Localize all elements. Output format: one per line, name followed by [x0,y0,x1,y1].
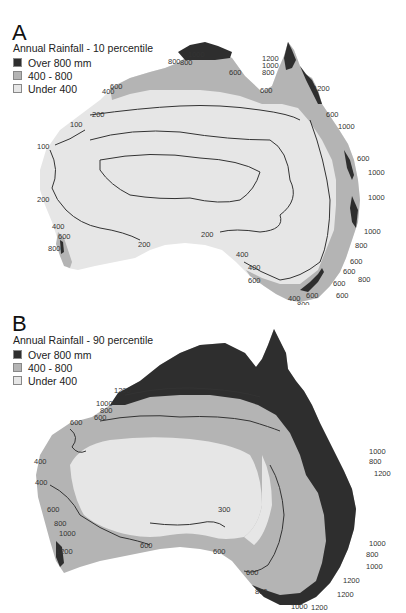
swatch-over-800 [13,58,22,67]
contour-label: 1200 [343,576,360,585]
contour-label: 600 [94,413,107,422]
legend-item-under-400: Under 400 [13,82,153,95]
contour-label: 200 [138,240,151,249]
legend-item-over-800: Over 800 mm [13,56,153,69]
contour-label: 1200 [374,469,391,478]
legend-label: 400 - 800 [28,70,72,82]
legend-label: Under 400 [28,375,77,387]
contour-label: 600 [58,232,71,241]
legend-item-over-800: Over 800 mm [13,348,153,361]
swatch-400-800 [13,71,22,80]
legend-label: Under 400 [28,83,77,95]
legend-item-400-800: 400 - 800 [13,361,153,374]
contour-label: 600 [47,505,60,514]
contour-label: 1200 [114,386,131,395]
contour-label: 800 [180,58,193,67]
contour-label: 1000 [368,168,385,177]
contour-label: 600 [343,267,356,276]
contour-label: 400 [52,222,65,231]
contour-label: 1200 [337,590,354,599]
contour-label: 200 [37,195,50,204]
swatch-under-400 [13,84,22,93]
contour-label: 1000 [338,122,355,131]
contour-label: 800 [255,587,268,596]
contour-label: 600 [248,276,261,285]
legend: Annual Rainfall - 90 percentile Over 800… [13,334,153,387]
contour-label: 1000 [364,227,381,236]
legend-title: Annual Rainfall - 10 percentile [13,42,153,54]
contour-label: 600 [333,279,346,288]
map-panel-b: 1200100080060060040040060080010001200600… [0,305,406,613]
contour-label: 600 [336,291,349,300]
contour-label: 800 [48,244,61,253]
contour-label: 800 [358,275,371,284]
contour-label: 800 [168,57,181,66]
contour-label: 600 [140,541,153,550]
contour-label: 400 [34,457,47,466]
contour-label: 800 [54,519,67,528]
contour-label: 800 [262,68,275,77]
contour-label: 600 [70,418,83,427]
contour-label: 1000 [368,193,385,202]
contour-label: 600 [326,110,339,119]
legend-item-under-400: Under 400 [13,374,153,387]
contour-label: 600 [357,154,370,163]
legend-label: Over 800 mm [28,349,92,361]
contour-label: 1000 [59,529,76,538]
contour-label: 600 [213,547,226,556]
contour-label: 200 [92,110,105,119]
legend-label: Over 800 mm [28,57,92,69]
contour-label: 400 [248,263,261,272]
swatch-400-800 [13,363,22,372]
contour-label: 600 [306,291,319,300]
legend: Annual Rainfall - 10 percentile Over 800… [13,42,153,95]
swatch-over-800 [13,350,22,359]
contour-label: 600 [229,68,242,77]
contour-label: 1000 [291,602,308,611]
contour-label: 100 [70,120,83,129]
under-400-interior [70,437,262,539]
contour-label: 600 [246,568,259,577]
legend-title: Annual Rainfall - 90 percentile [13,334,153,346]
contour-label: 1000 [369,447,386,456]
contour-label: 800 [366,550,379,559]
legend-item-400-800: 400 - 800 [13,69,153,82]
legend-label: 400 - 800 [28,362,72,374]
contour-label: 200 [201,230,214,239]
contour-label: 800 [355,241,368,250]
contour-label: 300 [218,505,231,514]
contour-label: 400 [35,478,48,487]
contour-label: 1000 [366,562,383,571]
contour-label: 1200 [56,547,73,556]
contour-label: 400 [236,250,249,259]
contour-label: 100 [37,142,50,151]
contour-label: 800 [369,457,382,466]
contour-label: 600 [350,257,363,266]
map-panel-a: 1000800800600120010008001200600600100060… [0,0,406,305]
contour-label: 1200 [313,84,330,93]
contour-label: 1200 [311,603,328,612]
contour-label: 600 [260,86,273,95]
swatch-under-400 [13,376,22,385]
contour-label: 1000 [369,539,386,548]
